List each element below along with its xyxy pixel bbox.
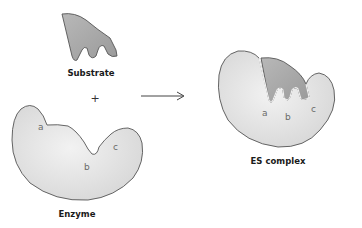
enzyme-site-b: b (84, 162, 90, 172)
complex-site-c: c (311, 104, 316, 114)
es-complex-shape (218, 51, 334, 147)
complex-site-b: b (285, 112, 291, 122)
substrate-label: Substrate (67, 68, 114, 78)
enzyme-label: Enzyme (59, 209, 96, 219)
es-complex-label: ES complex (251, 156, 306, 166)
reaction-arrow-icon (141, 92, 184, 100)
complex-site-a: a (262, 108, 268, 118)
substrate-shape (62, 14, 117, 61)
enzyme-shape (12, 106, 143, 201)
plus-sign: + (90, 92, 99, 105)
enzyme-site-c: c (113, 142, 118, 152)
enzyme-site-a: a (38, 122, 44, 132)
enzyme-substrate-diagram: Substrate + a b c Enzyme a b c ES comple… (0, 0, 362, 228)
